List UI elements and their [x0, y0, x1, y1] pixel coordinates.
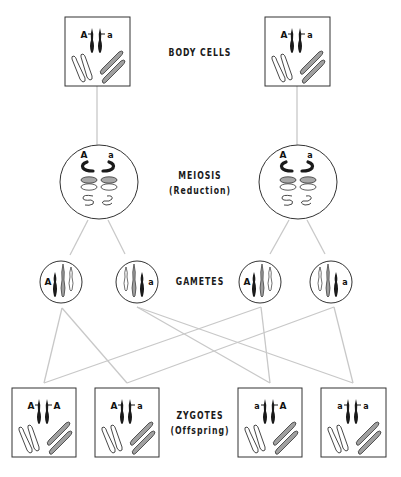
zygote-3: a A: [238, 388, 302, 457]
stage-label-body-cells: BODY CELLS: [159, 45, 241, 60]
allele-label: a: [107, 31, 112, 40]
allele-label: a: [307, 151, 312, 160]
allele-label: a: [342, 278, 347, 287]
label-text: BODY CELLS: [159, 45, 241, 60]
allele-label: A: [281, 30, 288, 40]
label-text: GAMETES: [159, 274, 241, 289]
allele-label: a: [137, 402, 142, 411]
allele-label: a: [363, 402, 368, 411]
allele-label: A: [54, 401, 61, 411]
label-subtext: (Reduction): [159, 183, 241, 198]
gamete-1: A: [40, 261, 82, 303]
body-cell-left: A a: [65, 17, 130, 86]
allele-label: A: [280, 150, 287, 160]
stage-label-meiosis: MEIOSIS (Reduction): [159, 168, 241, 198]
meiosis-cell-right: A a: [259, 145, 337, 219]
meiosis-cell-left: A a: [60, 145, 138, 219]
label-subtext: (Offspring): [159, 423, 241, 438]
allele-label: A: [81, 30, 88, 40]
allele-label: a: [337, 402, 342, 411]
stage-label-gametes: GAMETES: [159, 274, 241, 289]
allele-label: a: [307, 31, 312, 40]
gamete-2: a: [116, 261, 158, 303]
label-text: ZYGOTES: [159, 408, 241, 423]
body-cell-right: A a: [265, 17, 330, 86]
allele-label: A: [111, 401, 118, 411]
meiosis-diagram: A a A a A a A a A a A: [0, 0, 401, 477]
allele-label: a: [254, 402, 259, 411]
zygote-2: A a: [95, 388, 159, 457]
zygote-1: A A: [12, 388, 76, 457]
allele-label: A: [45, 277, 52, 287]
allele-label: a: [148, 278, 153, 287]
connector-lines: [44, 86, 353, 383]
allele-label: a: [108, 151, 113, 160]
allele-label: A: [81, 150, 88, 160]
stage-label-zygotes: ZYGOTES (Offspring): [159, 408, 241, 438]
allele-label: A: [280, 401, 287, 411]
allele-label: A: [244, 277, 251, 287]
label-text: MEIOSIS: [159, 168, 241, 183]
gamete-4: a: [310, 261, 352, 303]
gamete-3: A: [239, 261, 281, 303]
zygote-4: a a: [321, 388, 386, 457]
allele-label: A: [28, 401, 35, 411]
